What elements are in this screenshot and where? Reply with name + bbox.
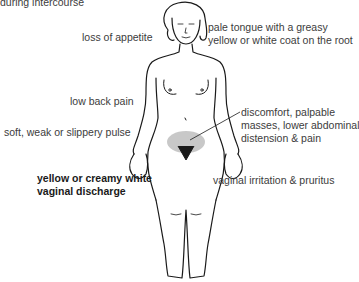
label-low-back-pain: low back pain [70, 95, 134, 108]
label-abdomen-line1: discomfort, palpable [241, 106, 335, 119]
label-tongue-line1: pale tongue with a greasy [208, 21, 328, 34]
label-loss-of-appetite: loss of appetite [82, 31, 153, 44]
label-abdomen-line2: masses, lower abdominal [241, 119, 359, 132]
label-tongue-line2: yellow or white coat on the root [208, 34, 353, 47]
label-during-intercourse: during intercourse [0, 0, 84, 9]
label-discharge-line1: yellow or creamy white [37, 172, 152, 185]
legs-outline [156, 200, 216, 278]
pubic-area [178, 146, 194, 160]
label-abdomen-line3: distension & pain [241, 132, 321, 145]
leader-line [190, 112, 240, 140]
face-outline [172, 18, 200, 44]
label-pulse: soft, weak or slippery pulse [4, 126, 131, 139]
label-discharge-line2: vaginal discharge [37, 185, 126, 198]
label-vaginal-irritation: vaginal irritation & pruritus [213, 174, 334, 187]
